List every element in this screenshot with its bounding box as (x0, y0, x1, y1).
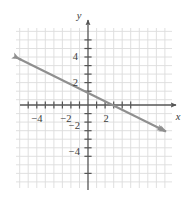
y-tick-label-2: 2 (73, 77, 78, 88)
graph-svg: −4 −2 2 4 2 −2 −4 y x (0, 0, 190, 203)
plot-background (16, 28, 172, 188)
x-tick-label-neg4: −4 (31, 113, 43, 124)
x-tick-label-2: 2 (103, 113, 108, 124)
line-arrow-left (19, 59, 21, 60)
y-tick-label-4: 4 (73, 51, 79, 62)
y-tick-label-neg4: −4 (69, 146, 81, 157)
coordinate-plane-figure: −4 −2 2 4 2 −2 −4 y x (0, 0, 190, 203)
y-axis-title: y (76, 10, 82, 21)
x-axis-title: x (175, 111, 181, 122)
y-tick-label-neg2: −2 (69, 120, 80, 131)
